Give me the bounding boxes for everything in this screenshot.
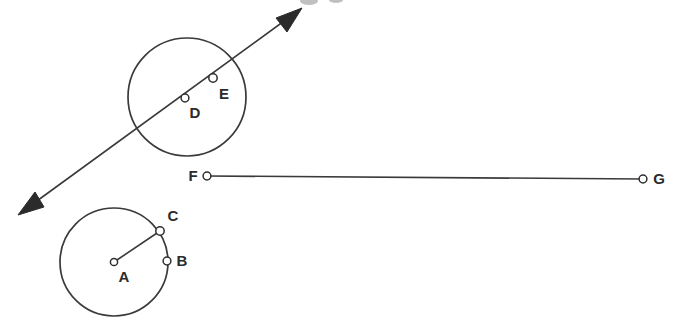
point-marker-b[interactable]	[163, 257, 171, 265]
point-label-b: B	[177, 252, 188, 269]
point-marker-d[interactable]	[181, 94, 189, 102]
point-label-e: E	[219, 85, 229, 102]
point-label-f: F	[188, 167, 197, 184]
point-label-g: G	[653, 170, 665, 187]
scan-artifact-group	[300, 0, 343, 5]
point-marker-f[interactable]	[203, 172, 211, 180]
arrow-head-lower-left-icon	[18, 192, 44, 215]
geometry-canvas: Geometric figure with two circles, a lin…	[0, 0, 674, 331]
point-marker-g[interactable]	[639, 175, 647, 183]
geometry-diagram: Geometric figure with two circles, a lin…	[0, 0, 674, 331]
point-label-a: A	[119, 268, 130, 285]
arrow-head-upper-right-icon	[276, 8, 302, 32]
point-label-c: C	[168, 207, 179, 224]
double-arrow-line-group	[18, 8, 302, 215]
scan-artifact-top-left-blob	[300, 0, 318, 5]
scan-artifact-top-right-blob	[329, 0, 343, 3]
point-marker-a[interactable]	[110, 258, 117, 265]
segment-fg	[207, 176, 643, 179]
point-label-d: D	[190, 104, 201, 121]
segment-radius-ac	[114, 231, 160, 262]
point-marker-e[interactable]	[209, 74, 217, 82]
point-marker-c[interactable]	[156, 227, 164, 235]
